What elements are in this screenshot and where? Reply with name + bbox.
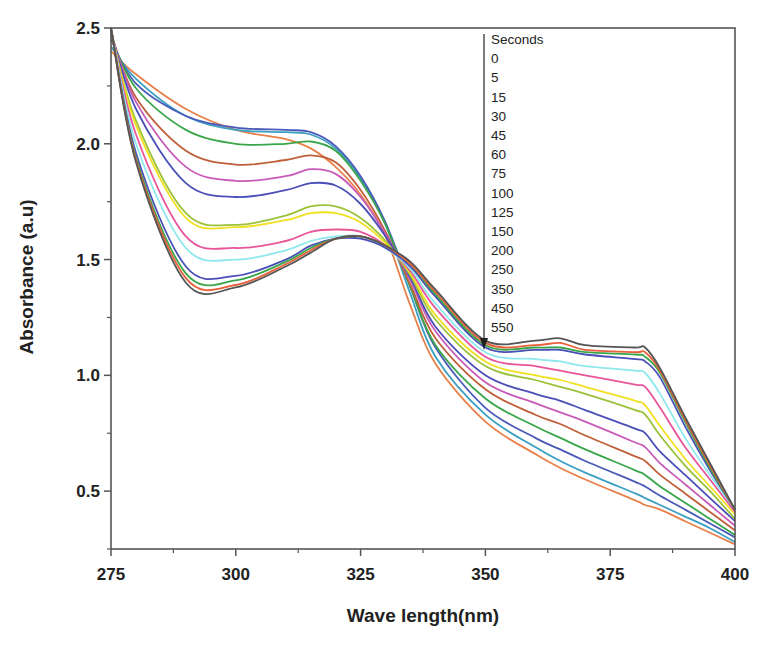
legend-entry: 15	[491, 90, 506, 105]
legend-entry: 30	[491, 109, 506, 124]
y-tick-label: 2.5	[76, 19, 100, 38]
series-line-350s	[111, 28, 735, 510]
legend-entry: 5	[491, 70, 499, 85]
y-tick-label: 2.0	[76, 135, 100, 154]
plot-lines	[111, 28, 735, 544]
series-line-450s	[111, 28, 735, 510]
legend-entry: 125	[491, 205, 514, 220]
legend-entry: 350	[491, 282, 514, 297]
series-line-200s	[111, 28, 735, 510]
legend-entry: 450	[491, 301, 514, 316]
legend-entry: 60	[491, 147, 506, 162]
chart: 2753003253503754000.51.01.52.02.5 Second…	[0, 0, 768, 649]
legend: Seconds051530456075100125150200250350450…	[480, 32, 544, 350]
y-axis-title: Absorbance (a.u)	[16, 199, 37, 354]
y-tick-label: 1.0	[76, 366, 100, 385]
x-axis-title: Wave length(nm)	[347, 605, 499, 626]
legend-entry: 150	[491, 224, 514, 239]
series-line-250s	[111, 28, 735, 510]
x-tick-label: 325	[346, 565, 374, 584]
x-tick-label: 350	[471, 565, 499, 584]
x-tick-label: 400	[721, 565, 749, 584]
series-line-550s	[111, 28, 735, 510]
series-line-150s	[111, 30, 735, 512]
x-tick-label: 300	[222, 565, 250, 584]
legend-entry: 0	[491, 51, 499, 66]
legend-title: Seconds	[491, 32, 544, 47]
legend-entry: 45	[491, 128, 506, 143]
y-tick-label: 0.5	[76, 482, 100, 501]
legend-entry: 250	[491, 262, 514, 277]
x-tick-label: 275	[97, 565, 125, 584]
legend-entry: 100	[491, 186, 514, 201]
legend-entry: 75	[491, 166, 506, 181]
legend-entry: 200	[491, 243, 514, 258]
x-tick-label: 375	[596, 565, 624, 584]
legend-entry: 550	[491, 320, 514, 335]
y-tick-label: 1.5	[76, 251, 100, 270]
series-line-125s	[111, 30, 735, 514]
